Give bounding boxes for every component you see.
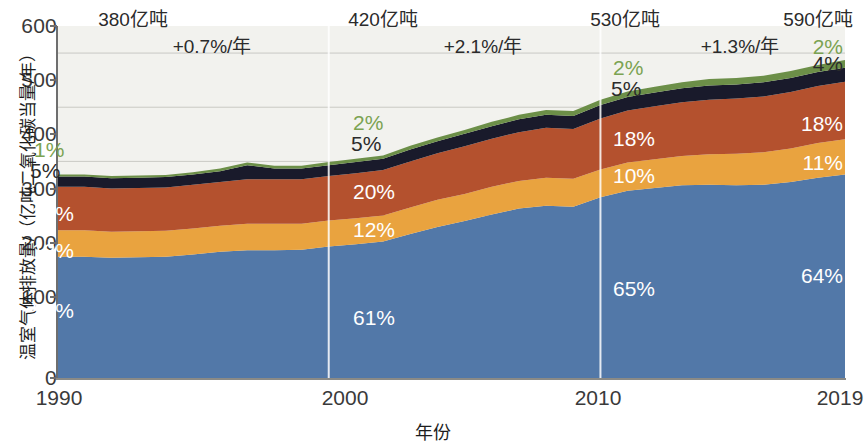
share-label-2000-co2fossil: 61% — [353, 307, 395, 328]
share-label-2019-methane: 18% — [801, 113, 843, 134]
chart-figure: 600 500 400 300 200 100 0 温室气体排放量/（亿吨二氧化… — [0, 0, 866, 445]
y-tick-mark-500 — [50, 79, 57, 81]
share-label-2019-n2o: 4% — [813, 53, 843, 74]
x-tick-2010: 2010 — [575, 386, 622, 410]
x-axis-title: 年份 — [0, 418, 866, 444]
plot-area — [57, 26, 845, 378]
share-label-1990-methane: 21% — [32, 203, 74, 224]
share-label-1990-co2fossil: 59% — [32, 300, 74, 321]
share-label-1990-fgases: 1% — [34, 139, 64, 160]
y-tick-mark-400 — [50, 133, 57, 135]
share-label-2000-methane: 20% — [353, 181, 395, 202]
share-label-1990-landuse: 13% — [32, 240, 74, 261]
share-label-2010-n2o: 5% — [611, 78, 641, 99]
y-tick-mark-100 — [50, 296, 57, 298]
share-label-2010-methane: 18% — [613, 128, 655, 149]
y-tick-mark-300 — [50, 188, 57, 190]
share-label-2000-n2o: 5% — [351, 133, 381, 154]
share-label-2019-landuse: 11% — [803, 152, 843, 173]
share-label-1990-n2o: 5% — [30, 160, 60, 181]
growth-rate-2010-2019: +1.3%/年 — [701, 31, 780, 58]
share-label-2000-landuse: 12% — [353, 219, 395, 240]
x-axis-line — [56, 378, 846, 380]
area-series-group — [57, 60, 845, 378]
total-label-2010: 530亿吨 — [590, 4, 660, 31]
total-label-2019: 590亿吨 — [783, 4, 853, 31]
x-tick-1990: 1990 — [36, 386, 83, 410]
growth-rate-2000-2010: +2.1%/年 — [444, 31, 523, 58]
share-label-2010-co2fossil: 65% — [613, 278, 655, 299]
total-label-1990: 380亿吨 — [98, 4, 168, 31]
x-tick-2000: 2000 — [322, 386, 369, 410]
share-label-2000-fgases: 2% — [353, 112, 383, 133]
y-tick-mark-600 — [50, 25, 57, 27]
total-label-2000: 420亿吨 — [348, 4, 418, 31]
growth-rate-1990-2000: +0.7%/年 — [173, 31, 252, 58]
x-tick-2019: 2019 — [817, 386, 864, 410]
stacked-area-svg — [57, 26, 845, 378]
share-label-2010-landuse: 10% — [613, 165, 655, 186]
share-label-2010-fgases: 2% — [613, 57, 643, 78]
share-label-2019-co2fossil: 64% — [801, 265, 843, 286]
